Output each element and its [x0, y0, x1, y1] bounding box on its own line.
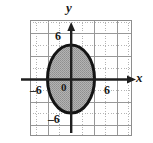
x-axis-tick-label-positive: 6 — [104, 84, 110, 96]
origin-label: 0 — [61, 82, 66, 93]
y-axis-label: y — [66, 1, 72, 14]
y-axis-tick-label-negative: –6 — [48, 113, 60, 125]
x-axis-label: x — [136, 71, 143, 84]
x-axis-tick-label-negative: –6 — [30, 84, 42, 96]
y-axis-tick-label-positive: 6 — [55, 30, 61, 42]
graph-figure: y x 6 –6 6 –6 0 — [0, 0, 153, 143]
coordinate-plane — [0, 0, 153, 143]
